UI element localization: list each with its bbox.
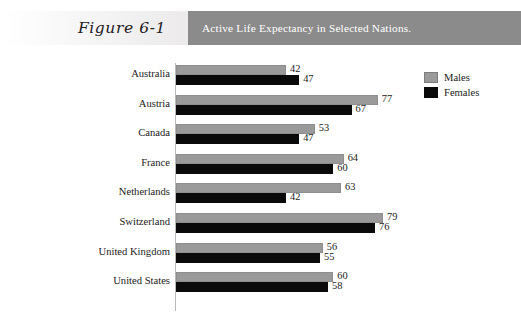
legend-label: Males [444,72,470,83]
bar-row: United Kingdom5655 [0,243,521,266]
bar-male [176,183,341,193]
bar-male [176,154,344,164]
bar-female [176,134,299,144]
bar-female [176,164,333,174]
legend-swatch-males-icon [424,72,438,83]
bar-value-label: 58 [332,280,342,291]
bar-male [176,95,378,105]
bar-female [176,253,320,263]
category-label: Australia [10,68,170,79]
bar-female [176,105,352,115]
bar-value-label: 55 [324,251,334,262]
category-label: United Kingdom [10,246,170,257]
category-label: Netherlands [10,186,170,197]
bar-value-label: 63 [345,181,355,192]
chart-legend: MalesFemales [424,71,479,101]
figure-header: Figure 6-1 Active Life Expectancy in Sel… [0,11,521,45]
bar-male [176,124,315,134]
bar-female [176,282,328,292]
bar-value-label: 47 [303,73,313,84]
bar-female [176,75,299,85]
bar-value-label: 47 [303,132,313,143]
bar-value-label: 42 [290,191,300,202]
figure-number-label: Figure 6-1 [78,19,166,37]
bar-value-label: 77 [382,93,392,104]
bar-male [176,65,286,75]
category-label: Canada [10,127,170,138]
category-label: United States [10,275,170,286]
legend-item: Females [424,86,479,99]
bar-row: United States6058 [0,272,521,295]
figure-title-banner: Active Life Expectancy in Selected Natio… [188,11,521,45]
bar-male [176,213,383,223]
category-label: Switzerland [10,216,170,227]
bar-row: Canada5347 [0,124,521,147]
bar-value-label: 76 [379,221,389,232]
figure-label-zone: Figure 6-1 [0,11,188,45]
bar-row: France6460 [0,154,521,177]
bar-value-label: 67 [356,103,366,114]
bar-value-label: 64 [348,152,358,163]
bar-male [176,243,323,253]
bar-female [176,193,286,203]
legend-label: Females [444,87,479,98]
bar-row: Switzerland7976 [0,213,521,236]
bar-value-label: 60 [337,162,347,173]
bar-value-label: 53 [319,122,329,133]
category-label: Austria [10,98,170,109]
bar-female [176,223,375,233]
bar-male [176,272,333,282]
bar-value-label: 42 [290,63,300,74]
legend-item: Males [424,71,479,84]
legend-swatch-females-icon [424,87,438,98]
category-label: France [10,157,170,168]
bar-row: Netherlands6342 [0,183,521,206]
figure-title: Active Life Expectancy in Selected Natio… [202,22,411,34]
